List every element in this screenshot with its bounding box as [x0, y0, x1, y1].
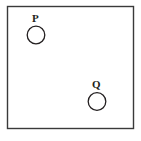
- circle-point-p: [27, 26, 45, 44]
- enclosing-rectangle: [8, 7, 134, 129]
- point-label-p: P: [32, 13, 39, 24]
- diagram-svg: [0, 0, 141, 141]
- circle-point-q: [88, 93, 106, 111]
- point-label-q: Q: [92, 79, 101, 90]
- figure-canvas: P Q: [0, 0, 141, 141]
